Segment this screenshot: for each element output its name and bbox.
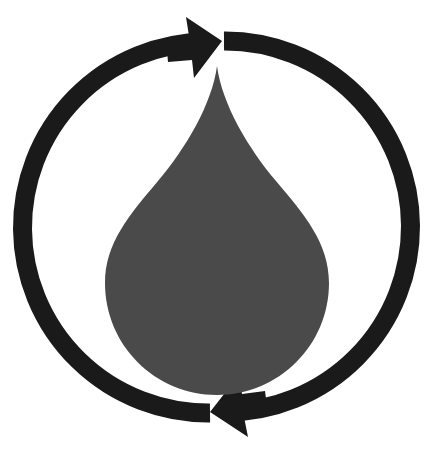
recycling-water-logo: Water Recycling Logo Dark gray water dro… — [0, 0, 436, 471]
logo-canvas: Water Recycling Logo Dark gray water dro… — [0, 0, 436, 471]
